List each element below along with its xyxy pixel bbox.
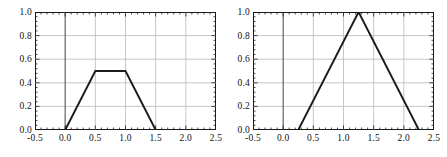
plot-svg-left bbox=[35, 12, 216, 130]
y-tick-label: 1.0 bbox=[238, 7, 250, 17]
x-tick-label: -0.5 bbox=[245, 133, 261, 143]
y-tick-label: 0.2 bbox=[20, 101, 32, 111]
x-tick-label: 2.5 bbox=[428, 133, 440, 143]
x-tick-label: 2.0 bbox=[180, 133, 192, 143]
x-tick-label: 0.0 bbox=[277, 133, 289, 143]
plot-svg-right bbox=[253, 12, 434, 130]
chart-panel-left: 0.00.20.40.60.81.0 -0.50.00.51.01.52.02.… bbox=[0, 0, 223, 157]
figure-container: 0.00.20.40.60.81.0 -0.50.00.51.01.52.02.… bbox=[0, 0, 447, 157]
x-tick-label: -0.5 bbox=[27, 133, 43, 143]
x-tick-label: 1.0 bbox=[119, 133, 131, 143]
x-tick-label: 2.0 bbox=[398, 133, 410, 143]
y-tick-label: 1.0 bbox=[20, 7, 32, 17]
y-tick-label: 0.2 bbox=[238, 101, 250, 111]
y-tick-label: 0.4 bbox=[238, 78, 250, 88]
chart-panel-right: 0.00.20.40.60.81.0 -0.50.00.51.01.52.02.… bbox=[223, 0, 446, 157]
x-tick-label: 0.0 bbox=[59, 133, 71, 143]
y-tick-label: 0.8 bbox=[20, 31, 32, 41]
y-tick-label: 0.6 bbox=[238, 54, 250, 64]
x-tick-label: 1.0 bbox=[337, 133, 349, 143]
plot-area-right: 0.00.20.40.60.81.0 -0.50.00.51.01.52.02.… bbox=[253, 12, 434, 130]
x-tick-label: 0.5 bbox=[89, 133, 101, 143]
x-tick-label: 2.5 bbox=[210, 133, 222, 143]
x-tick-label: 1.5 bbox=[367, 133, 379, 143]
y-tick-label: 0.4 bbox=[20, 78, 32, 88]
y-tick-label: 0.8 bbox=[238, 31, 250, 41]
x-tick-label: 0.5 bbox=[307, 133, 319, 143]
y-tick-label: 0.6 bbox=[20, 54, 32, 64]
x-tick-label: 1.5 bbox=[149, 133, 161, 143]
plot-area-left: 0.00.20.40.60.81.0 -0.50.00.51.01.52.02.… bbox=[35, 12, 216, 130]
